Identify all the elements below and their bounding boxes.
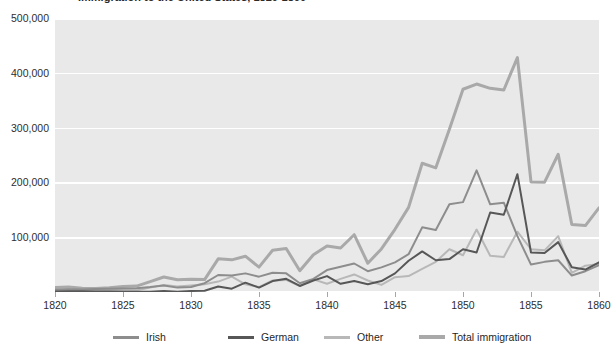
y-axis-tick-label: 400,000 bbox=[11, 67, 49, 79]
x-axis-tick-label: 1820 bbox=[43, 299, 66, 311]
x-axis-tick bbox=[123, 292, 124, 297]
legend-item-other[interactable]: Other bbox=[324, 331, 383, 343]
y-axis-labels: 100,000200,000300,000400,000500,000 bbox=[0, 0, 52, 310]
x-axis-tick-label: 1845 bbox=[383, 299, 406, 311]
legend-swatch-icon bbox=[419, 335, 445, 339]
series-line-irish bbox=[55, 170, 599, 289]
legend-label: Other bbox=[357, 331, 383, 343]
x-axis-tick-label: 1830 bbox=[179, 299, 202, 311]
chart-title: Immigration to the United States, 1820-1… bbox=[78, 0, 306, 3]
x-axis-tick-label: 1850 bbox=[451, 299, 474, 311]
plot-area bbox=[55, 18, 599, 292]
legend-label: Total immigration bbox=[452, 331, 531, 343]
y-axis-tick-label: 500,000 bbox=[11, 12, 49, 24]
x-axis-tick bbox=[599, 292, 600, 297]
series-line-total-immigration bbox=[55, 58, 599, 289]
x-axis-ticks bbox=[55, 292, 599, 298]
legend-item-irish[interactable]: Irish bbox=[113, 331, 166, 343]
y-axis-tick-label: 100,000 bbox=[11, 231, 49, 243]
x-axis-tick-label: 1840 bbox=[315, 299, 338, 311]
chart-title-cutoff: Immigration to the United States, 1820-1… bbox=[0, 0, 599, 8]
y-axis-tick-label: 200,000 bbox=[11, 176, 49, 188]
x-axis-tick bbox=[531, 292, 532, 297]
legend-swatch-icon bbox=[113, 336, 139, 339]
legend-item-total-immigration[interactable]: Total immigration bbox=[419, 331, 531, 343]
x-axis-tick bbox=[55, 292, 56, 297]
y-axis-tick-label: 300,000 bbox=[11, 122, 49, 134]
x-axis-tick-label: 1835 bbox=[247, 299, 270, 311]
x-axis-labels: 182018251830183518401845185018551860 bbox=[0, 299, 599, 315]
series-line-other bbox=[55, 230, 599, 291]
series-lines bbox=[55, 18, 599, 292]
x-axis-tick-label: 1825 bbox=[111, 299, 134, 311]
x-axis-tick-label: 1855 bbox=[519, 299, 542, 311]
legend-label: Irish bbox=[146, 331, 166, 343]
legend-swatch-icon bbox=[228, 336, 254, 339]
x-axis-tick bbox=[327, 292, 328, 297]
chart-legend: IrishGermanOtherTotal immigration bbox=[0, 327, 599, 347]
x-axis-tick-label: 1860 bbox=[587, 299, 610, 311]
x-axis-tick bbox=[395, 292, 396, 297]
x-axis-tick bbox=[191, 292, 192, 297]
x-axis-tick bbox=[259, 292, 260, 297]
legend-item-german[interactable]: German bbox=[228, 331, 299, 343]
legend-label: German bbox=[261, 331, 299, 343]
x-axis-tick bbox=[463, 292, 464, 297]
legend-swatch-icon bbox=[324, 336, 350, 339]
